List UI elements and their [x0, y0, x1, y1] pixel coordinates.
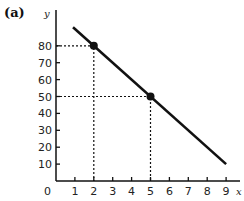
- y-tick-label: 60: [38, 74, 52, 87]
- x-tick-label: 9: [223, 185, 230, 198]
- y-tick-label: 20: [38, 141, 52, 154]
- y-axis-label: y: [43, 8, 50, 19]
- dashed-guide: [56, 46, 94, 181]
- x-tick-label: 6: [166, 185, 173, 198]
- data-point: [90, 42, 98, 50]
- x-tick-label: 2: [90, 185, 97, 198]
- origin-label: 0: [44, 185, 51, 198]
- dashed-guide: [56, 97, 151, 182]
- data-point: [147, 93, 155, 101]
- x-axis-label: x: [236, 186, 242, 197]
- x-tick-label: 1: [71, 185, 78, 198]
- y-tick-label: 70: [38, 57, 52, 70]
- x-tick-label: 4: [128, 185, 135, 198]
- x-tick-label: 7: [185, 185, 192, 198]
- y-tick-label: 50: [38, 91, 52, 104]
- x-tick-label: 5: [147, 185, 154, 198]
- x-tick-label: 3: [109, 185, 116, 198]
- y-tick-label: 10: [38, 158, 52, 171]
- line-chart: (a)yx01234567891020304050607080: [0, 0, 244, 201]
- y-tick-label: 30: [38, 124, 52, 137]
- x-tick-label: 8: [204, 185, 211, 198]
- y-tick-label: 80: [38, 40, 52, 53]
- y-tick-label: 40: [38, 107, 52, 120]
- panel-label: (a): [4, 5, 25, 20]
